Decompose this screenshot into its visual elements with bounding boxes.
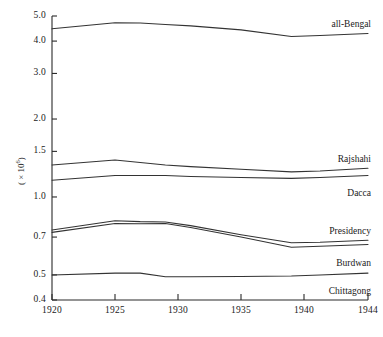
series-label: Dacca bbox=[347, 188, 371, 198]
x-tick-label: 1940 bbox=[279, 305, 329, 315]
x-tick-label: 1920 bbox=[27, 305, 77, 315]
y-tick-label: 2.0 bbox=[10, 113, 46, 123]
series-lines bbox=[52, 23, 368, 277]
series-label: Chittagong bbox=[329, 286, 371, 296]
tick-marks bbox=[52, 16, 368, 300]
series-label: all-Bengal bbox=[331, 19, 371, 29]
series-line bbox=[52, 273, 368, 277]
y-tick-label: 5.0 bbox=[10, 10, 46, 20]
series-label: Burdwan bbox=[336, 258, 371, 268]
series-line bbox=[52, 160, 368, 172]
series-label: Rajshahi bbox=[338, 154, 371, 164]
y-tick-label: 3.0 bbox=[10, 67, 46, 77]
y-tick-label: 0.5 bbox=[10, 269, 46, 279]
series-line bbox=[52, 221, 368, 243]
x-tick-label: 1930 bbox=[153, 305, 203, 315]
series-label: Presidency bbox=[329, 226, 371, 236]
axis-lines bbox=[52, 16, 368, 300]
y-tick-label: 0.4 bbox=[10, 294, 46, 304]
y-tick-label: 4.0 bbox=[10, 35, 46, 45]
series-line bbox=[52, 176, 368, 181]
y-tick-label: 0.7 bbox=[10, 231, 46, 241]
x-tick-label: 1935 bbox=[216, 305, 266, 315]
x-tick-label: 1925 bbox=[90, 305, 140, 315]
series-line bbox=[52, 23, 368, 37]
y-tick-label: 1.0 bbox=[10, 191, 46, 201]
y-tick-label: 1.5 bbox=[10, 145, 46, 155]
series-line bbox=[52, 223, 368, 247]
x-tick-label: 1944 bbox=[343, 305, 383, 315]
